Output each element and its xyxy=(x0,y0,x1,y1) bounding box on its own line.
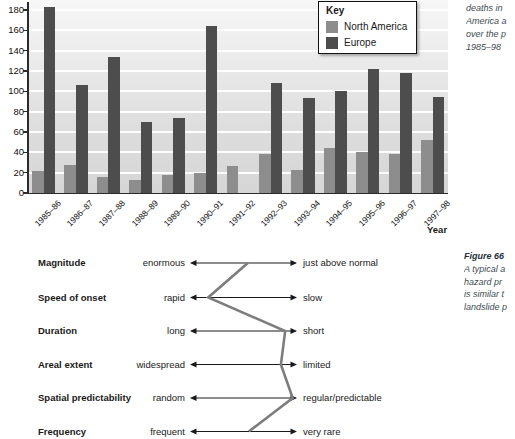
bar-europe xyxy=(303,98,315,193)
bar-north-america xyxy=(389,154,401,193)
profile-left-term: rapid xyxy=(88,291,185,305)
y-axis-tick-label: 180 xyxy=(0,4,24,16)
y-axis-tick-mark xyxy=(23,192,28,193)
legend-item-north-america: North America xyxy=(326,21,416,33)
figure-caption-body: A typical ahazard pris similar tlandslid… xyxy=(464,263,515,314)
bar-north-america xyxy=(129,180,141,193)
bar-north-america xyxy=(162,175,174,193)
left-arrowhead-icon xyxy=(190,295,197,301)
y-axis-tick-label: 80 xyxy=(0,106,24,118)
gridline xyxy=(28,131,448,133)
profile-row-label: Magnitude xyxy=(38,256,86,270)
bar-europe xyxy=(206,26,218,193)
legend-item-europe: Europe xyxy=(326,37,416,49)
left-arrowhead-icon xyxy=(190,362,197,368)
left-arrowhead-icon xyxy=(190,395,197,401)
profile-arrow xyxy=(190,362,297,368)
bar-europe xyxy=(76,85,88,193)
bar-north-america xyxy=(421,140,433,193)
profile-right-term: short xyxy=(303,324,324,338)
bar-north-america xyxy=(259,154,271,193)
gridline xyxy=(28,151,448,153)
y-axis-tick-label: 60 xyxy=(0,126,24,138)
gridline xyxy=(28,90,448,92)
right-arrowhead-icon xyxy=(291,429,298,435)
y-axis-tick-mark xyxy=(23,50,28,51)
legend-title: Key xyxy=(326,4,416,17)
chart-caption-line: deaths in xyxy=(466,2,515,15)
profile-arrow xyxy=(190,328,297,334)
bar-europe xyxy=(335,91,347,193)
profile-row-label: Frequency xyxy=(38,425,86,439)
bar-europe xyxy=(433,97,445,193)
y-axis-tick-mark xyxy=(23,172,28,173)
figure-caption-title: Figure 66 xyxy=(464,250,515,263)
right-arrowhead-icon xyxy=(291,260,298,266)
y-axis-tick-mark xyxy=(23,91,28,92)
profile-right-term: regular/predictable xyxy=(303,391,382,405)
legend-label-europe: Europe xyxy=(344,37,376,49)
hazard-profile-line xyxy=(208,263,293,432)
figure-caption-line: landslide p xyxy=(464,301,515,314)
figure-caption-line: hazard pr xyxy=(464,276,515,289)
profile-row-label: Areal extent xyxy=(38,358,92,372)
y-axis-tick-label: 20 xyxy=(0,167,24,179)
y-axis-tick-label: 160 xyxy=(0,24,24,36)
bar-europe xyxy=(400,73,412,193)
chart-caption: deaths inAmerica aover the p1985–98 xyxy=(466,2,515,54)
y-axis-tick-mark xyxy=(23,111,28,112)
north-america-swatch-icon xyxy=(326,21,338,33)
y-axis-tick-mark xyxy=(23,30,28,31)
profile-left-term: random xyxy=(88,391,185,405)
profile-right-term: very rare xyxy=(303,425,340,439)
y-axis-tick-label: 140 xyxy=(0,45,24,57)
bar-europe xyxy=(108,57,120,193)
left-arrowhead-icon xyxy=(190,328,197,334)
figure-caption-line: is similar t xyxy=(464,288,515,301)
profile-arrow xyxy=(190,260,297,266)
profile-arrow xyxy=(190,395,297,401)
right-arrowhead-icon xyxy=(291,362,298,368)
bar-north-america xyxy=(32,171,44,193)
figure-caption-line: A typical a xyxy=(464,263,515,276)
bar-north-america xyxy=(64,165,76,193)
x-axis-title: Year xyxy=(427,224,447,235)
bar-north-america xyxy=(291,170,303,193)
y-axis-tick-mark xyxy=(23,70,28,71)
y-axis-tick-label: 0 xyxy=(0,187,24,199)
profile-right-term: slow xyxy=(303,291,322,305)
profile-arrow xyxy=(190,429,297,435)
chart-caption-line: America a xyxy=(466,15,515,28)
legend: Key North America Europe xyxy=(318,1,417,54)
profile-left-term: widespread xyxy=(88,358,185,372)
europe-swatch-icon xyxy=(326,37,338,49)
bar-europe xyxy=(44,7,56,193)
gridline xyxy=(28,70,448,72)
chart-caption-line: 1985–98 xyxy=(466,41,515,54)
profile-right-term: limited xyxy=(303,358,330,372)
profile-left-term: frequent xyxy=(88,425,185,439)
y-axis-tick-mark xyxy=(23,9,28,10)
profile-arrow xyxy=(190,295,297,301)
bar-north-america xyxy=(194,173,206,193)
y-axis-tick-label: 40 xyxy=(0,146,24,158)
y-axis-tick-label: 120 xyxy=(0,65,24,77)
profile-right-term: just above normal xyxy=(303,256,378,270)
y-axis-tick-mark xyxy=(23,131,28,132)
x-axis-line xyxy=(27,193,448,195)
bar-europe xyxy=(173,118,185,193)
chart-caption-line: over the p xyxy=(466,28,515,41)
left-arrowhead-icon xyxy=(190,429,197,435)
figure-caption: Figure 66 A typical ahazard pris similar… xyxy=(464,250,515,314)
y-axis-tick-mark xyxy=(23,152,28,153)
bar-europe xyxy=(368,69,380,193)
legend-label-north-america: North America xyxy=(344,21,407,33)
bar-europe xyxy=(141,122,153,193)
y-axis-tick-label: 100 xyxy=(0,85,24,97)
left-arrowhead-icon xyxy=(190,260,197,266)
bar-north-america xyxy=(97,177,109,193)
bar-north-america xyxy=(227,166,239,193)
bar-europe xyxy=(271,83,283,193)
bar-north-america xyxy=(324,148,336,193)
right-arrowhead-icon xyxy=(291,295,298,301)
